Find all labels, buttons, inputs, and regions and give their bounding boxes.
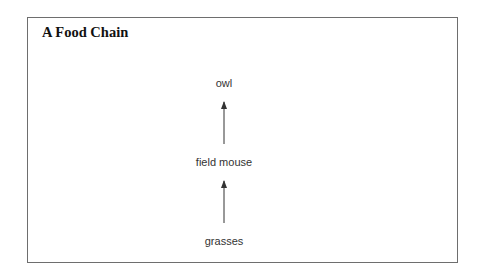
arrowhead-icon <box>221 101 227 109</box>
arrow-field-mouse-to-owl <box>221 101 227 144</box>
arrowhead-icon <box>221 180 227 188</box>
arrows-layer <box>0 0 482 279</box>
arrow-grasses-to-field-mouse <box>221 180 227 223</box>
